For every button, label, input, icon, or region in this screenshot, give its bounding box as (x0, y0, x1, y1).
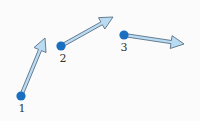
vector-diagram: 1 2 3 (0, 0, 200, 121)
point-label-1: 1 (19, 103, 26, 114)
displacement-arrow-3 (124, 33, 184, 48)
point-2 (56, 41, 65, 50)
point-3 (119, 30, 128, 39)
point-label-3: 3 (121, 42, 128, 53)
point-1 (16, 91, 25, 100)
displacement-arrow-1 (20, 38, 47, 97)
arrows-layer (20, 17, 184, 97)
diagram-canvas (0, 0, 200, 121)
displacement-arrow-2 (60, 17, 113, 47)
point-label-2: 2 (60, 53, 67, 64)
